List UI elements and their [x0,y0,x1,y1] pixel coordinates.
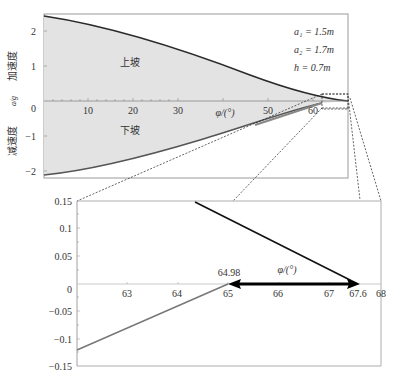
inset-chart: 0.15 0.1 0.05 0 −0.05 −0.1 −0.15 63 64 6… [49,196,386,372]
inset-x-tick-63: 63 [122,288,132,299]
y-tick-neg2: −2 [25,166,36,177]
inset-start-label: 64.98 [218,267,241,278]
inset-x-tick-65: 65 [223,288,233,299]
inset-y-tick-neg0.1: −0.1 [54,334,72,345]
inset-y-tick-neg0.05: −0.05 [49,306,72,317]
inset-y-tick-0: 0 [67,284,72,295]
x-tick-50: 50 [263,105,273,116]
inset-x-tick-67.6: 67.6 [349,288,367,299]
x-tick-20: 20 [128,105,138,116]
annotation-a1: a₁ = 1.5m [294,26,334,37]
inset-x-tick-64: 64 [172,288,182,299]
inset-x-tick-66: 66 [273,288,283,299]
region-downhill-label: 下坡 [120,124,140,136]
y-tick-1: 1 [31,61,36,72]
annotation-h: h = 0.7m [294,62,330,73]
annotation-a2: a₂ = 1.7m [294,44,334,55]
feasible-region [44,16,348,175]
y-tick-2: 2 [31,26,36,37]
inset-y-tick-0.05: 0.05 [55,251,73,262]
main-x-label: φ/(°) [216,107,236,119]
y-tick-0: 0 [31,103,36,114]
y-label-decel: 减速度 [6,126,18,156]
x-tick-10: 10 [83,105,93,116]
inset-y-tick-0.15: 0.15 [55,196,73,207]
y-tick-neg1: −1 [25,131,36,142]
figure: 2 1 0 −1 −2 10 20 30 50 60 φ/(°) 加速度 a/g… [0,0,394,386]
inset-y-tick-0.1: 0.1 [60,223,73,234]
main-chart: 2 1 0 −1 −2 10 20 30 50 60 φ/(°) 加速度 a/g… [6,14,350,178]
inset-x-label: φ/(°) [278,264,298,276]
x-tick-60: 60 [308,105,318,116]
inset-downhill-line [77,284,228,350]
inset-y-ticks [77,214,80,352]
inset-x-tick-67: 67 [324,288,334,299]
inset-y-tick-neg0.15: −0.15 [49,361,72,372]
x-tick-30: 30 [173,105,183,116]
inset-x-tick-68: 68 [376,288,386,299]
y-label-accel: 加速度 [6,51,18,81]
region-uphill-label: 上坡 [120,56,140,68]
y-label-ag: a/g [9,96,18,106]
